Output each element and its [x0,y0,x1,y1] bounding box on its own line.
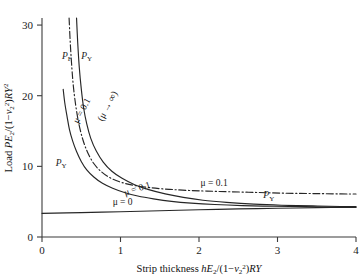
y-title-mid: /(1− [3,114,15,132]
y-tick-label: 0 [28,231,34,243]
label-PY-right-sub: Y [269,195,274,203]
x-tick-label: 1 [118,244,124,256]
x-title-mid: /(1− [217,263,235,275]
y-title-Y-sup: 2 [2,83,10,87]
chart-figure: 0102030 01234 PFPYPYPYμ = 0.1(μ → ∞)μ = … [0,0,364,278]
label-mu-0: μ = 0 [113,197,133,207]
y-tick-label: 10 [22,160,34,172]
x-tick-label: 0 [39,244,45,256]
x-tick-label: 2 [196,244,202,256]
label-mu-01-right: μ = 0.1 [201,178,228,188]
y-tick-label: 20 [22,90,34,102]
y-axis-title: Load PE2/(1−ν22)RY2 [2,83,16,172]
label-PY-top-sub: Y [87,55,92,63]
y-tick-label: 30 [22,19,34,31]
x-tick-label: 3 [275,244,281,256]
x-tick-label: 4 [353,244,359,256]
label-PY-left-sub: Y [62,162,67,170]
y-title-prefix: Load [3,148,14,172]
label-PF-top-sub: F [68,55,72,63]
chart-svg: 0102030 01234 PFPYPYPYμ = 0.1(μ → ∞)μ = … [0,0,364,278]
chart-background [0,0,364,278]
x-title-prefix: Strip thickness [137,263,202,274]
